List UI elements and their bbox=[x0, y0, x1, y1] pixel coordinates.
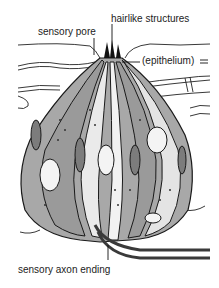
taste-bud-illustration bbox=[0, 0, 219, 288]
hairlike-tips bbox=[104, 40, 121, 58]
label-epithelium: (epithelium) bbox=[142, 56, 194, 66]
label-sensory-pore: sensory pore bbox=[38, 27, 96, 37]
label-sensory-axon-ending: sensory axon ending bbox=[18, 265, 110, 275]
label-hairlike-structures: hairlike structures bbox=[111, 14, 189, 24]
